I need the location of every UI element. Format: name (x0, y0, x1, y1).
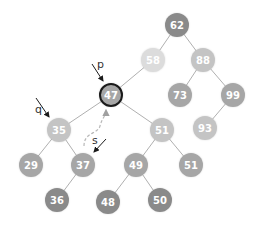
tree-node-58: 58 (141, 48, 165, 72)
tree-node-62: 62 (165, 13, 189, 37)
tree-node-73: 73 (168, 83, 192, 107)
tree-node-93: 93 (193, 116, 217, 140)
tree-node-88: 88 (191, 48, 215, 72)
tree-node-50: 50 (148, 188, 172, 212)
tree-node-51: 51 (150, 118, 174, 142)
pointer-p-label: p (97, 58, 104, 71)
tree-node-51: 51 (179, 153, 203, 177)
pointer-s-label: s (92, 134, 98, 147)
pointer-q-label: q (35, 103, 42, 116)
tree-node-37: 37 (71, 153, 95, 177)
tree-node-48: 48 (96, 190, 120, 214)
tree-node-29: 29 (19, 153, 43, 177)
tree-node-35: 35 (47, 118, 71, 142)
tree-node-47: 47 (99, 83, 123, 107)
tree-node-49: 49 (124, 153, 148, 177)
tree-node-99: 99 (221, 83, 245, 107)
tree-node-36: 36 (45, 188, 69, 212)
